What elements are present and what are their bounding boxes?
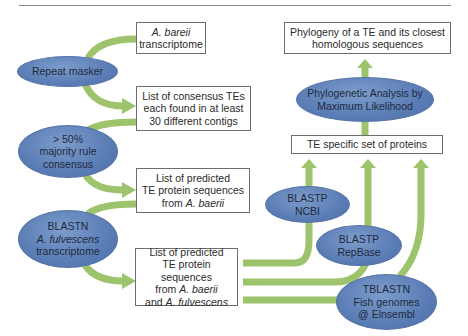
ellipse-blastn: BLASTN A. fulvescens transcriptome (18, 210, 118, 268)
prefix: from (155, 283, 179, 295)
ellipse-repeat-masker: Repeat masker (17, 56, 118, 87)
box-predicted-baerii-line1: List of predicted (156, 172, 230, 185)
box-consensus-line3: 30 different contigs (149, 115, 238, 128)
arc-into-repeat-masker (88, 39, 136, 58)
ellipse-repeat-masker-label: Repeat masker (32, 65, 103, 78)
box-consensus-tes: List of consensus TEs each found in at l… (136, 86, 251, 131)
species: A. fulvescens (165, 296, 227, 308)
box-predicted-both-line3: from A. baerii (155, 283, 217, 296)
box-predicted-baerii-line3: from A. baerii (162, 197, 224, 210)
flow-to-blastp-ncbi (243, 222, 309, 263)
arc-repeat-to-consensus (85, 84, 124, 106)
ellipse-tblastn: TBLASTN Fish genomes @ Elnsembl (336, 274, 437, 330)
ellipse-majority-line1: > 50% (53, 133, 83, 146)
workflow-diagram: A. bareii transcriptome Repeat masker Li… (0, 0, 468, 336)
box-te-specific-proteins: TE specific set of proteins (291, 135, 443, 154)
ellipse-tblastn-line3: @ Elnsembl (358, 308, 415, 321)
arrowhead-predicted-both (122, 273, 136, 289)
species: A. baerii (179, 283, 218, 295)
ellipse-blastn-line3: transcriptome (36, 245, 100, 258)
ellipse-majority-line2: majority rule (39, 145, 96, 158)
box-predicted-both: List of predicted TE protein sequences f… (135, 248, 238, 306)
ellipse-blastp-ncbi: BLASTP NCBI (265, 186, 350, 223)
box-phylogeny: Phylogeny of a TE and its closest homolo… (284, 22, 451, 54)
prefix: and (145, 296, 165, 308)
arc-blastn-to-predicted-both (85, 265, 124, 281)
ellipse-blastn-line2: A. fulvescens (37, 233, 99, 246)
arrowhead-consensus (122, 98, 136, 114)
box-consensus-line2: each found in at least (144, 102, 244, 115)
arrowhead-tblastn-up (413, 159, 429, 168)
arrowhead-ncbi-up (301, 159, 317, 168)
box-te-specific-label: TE specific set of proteins (307, 138, 427, 151)
ellipse-majority-line3: consensus (43, 158, 93, 171)
ellipse-ncbi-line1: BLASTP (287, 192, 327, 205)
prefix: from (162, 197, 186, 209)
ellipse-blastp-repbase: BLASTP RepBase (316, 225, 402, 266)
box-predicted-both-line1: List of predicted (149, 246, 223, 259)
box-a-bareii-transcriptome: A. bareii transcriptome (136, 22, 206, 54)
ellipse-ml-line2: Maximum Likelihood (317, 100, 413, 113)
box-predicted-baerii-line2: TE protein sequences (142, 184, 244, 197)
box-a-bareii-line2: transcriptome (139, 38, 203, 51)
ellipse-repbase-line2: RepBase (337, 246, 380, 259)
ellipse-ml-line1: Phylogenetic Analysis by (307, 87, 423, 100)
arc-majority-to-predicted (85, 174, 124, 190)
box-consensus-line1: List of consensus TEs (142, 90, 245, 103)
box-phylogeny-line2: homologous sequences (312, 38, 423, 51)
ellipse-majority-rule: > 50% majority rule consensus (18, 125, 118, 178)
species: A. baerii (186, 197, 225, 209)
ellipse-ncbi-line2: NCBI (295, 205, 320, 218)
box-predicted-both-line4: and A. fulvescens (145, 296, 228, 309)
box-phylogeny-line1: Phylogeny of a TE and its closest (290, 26, 445, 39)
arrowhead-repbase-up (360, 159, 376, 168)
ellipse-blastn-line1: BLASTN (48, 220, 89, 233)
flow-tblastn-up (400, 168, 421, 276)
ellipse-tblastn-line1: TBLASTN (363, 283, 410, 296)
box-a-bareii-line1: A. bareii (152, 26, 191, 39)
box-predicted-baerii: List of predicted TE protein sequences f… (136, 168, 250, 213)
arc-into-blastn (88, 204, 136, 214)
arrowhead-ml-up (357, 59, 373, 68)
box-predicted-both-line2: TE protein sequences (136, 258, 237, 283)
arrowhead-predicted-baerii (122, 182, 136, 198)
ellipse-phylogenetic-analysis: Phylogenetic Analysis by Maximum Likelih… (296, 77, 434, 122)
ellipse-repbase-line1: BLASTP (339, 233, 379, 246)
ellipse-tblastn-line2: Fish genomes (354, 296, 420, 309)
